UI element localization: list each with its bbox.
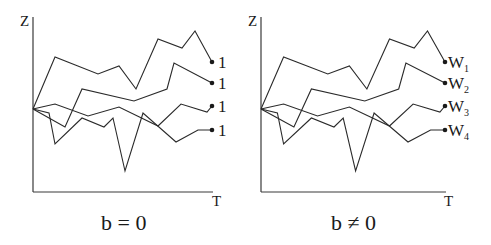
panel-left: Z T 1 1 1 1 b = 0 [20,13,227,235]
sample-paths [33,31,214,171]
sample-path-3 [261,104,445,126]
endpoint-dot-3 [210,104,215,109]
endpoint-dot-1 [210,60,215,65]
end-label-w4: W4 [448,121,469,142]
sample-path-4 [33,109,212,171]
end-label-w1: W1 [448,53,469,74]
sample-path-3 [33,104,212,126]
diagram-canvas: Z T 1 1 1 1 b = 0 Z T W1 W2 W3 W4 b ≠ 0 [0,0,491,245]
caption-right: b ≠ 0 [331,210,376,235]
end-label-4: 1 [218,121,227,140]
sample-path-1 [33,31,212,109]
endpoint-dot-3 [443,104,448,109]
endpoint-dot-2 [210,81,215,86]
end-label-3: 1 [218,97,227,116]
sample-path-4 [261,109,445,171]
endpoint-dot-4 [443,128,448,133]
sample-path-2 [33,63,212,127]
end-label-w2: W2 [448,74,469,95]
endpoint-dot-4 [210,128,215,133]
end-label-2: 1 [218,74,227,93]
z-axis-label: Z [20,13,29,29]
sample-paths [261,31,447,171]
caption-left: b = 0 [101,210,146,235]
end-label-1: 1 [218,53,227,72]
sample-path-1 [261,31,445,109]
end-label-w3: W3 [448,97,469,118]
sample-path-2 [261,63,445,127]
endpoint-dot-2 [443,81,448,86]
endpoint-dot-1 [443,60,448,65]
panel-right: Z T W1 W2 W3 W4 b ≠ 0 [248,13,469,235]
t-axis-label: T [444,193,453,209]
t-axis-label: T [212,193,221,209]
z-axis-label: Z [248,13,257,29]
